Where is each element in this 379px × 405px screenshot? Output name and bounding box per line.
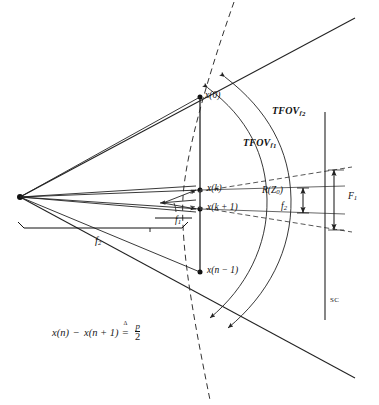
formula-numerator: p — [135, 322, 140, 331]
label-F1: F1 — [348, 192, 357, 202]
focal-surface-dashed-curve — [183, 2, 234, 400]
fov-dashed-edges — [190, 167, 352, 232]
label-tfov-f2: TFOVf2 — [272, 106, 306, 118]
formula-fraction: p 2 — [135, 322, 140, 343]
label-sc: SC — [330, 297, 339, 304]
f2-baseline-bracket — [18, 222, 188, 232]
label-xn1: x(n − 1) — [207, 266, 238, 276]
diagram-canvas — [0, 0, 379, 405]
dimension-F1 — [328, 170, 344, 230]
arrow-leftward — [160, 200, 196, 203]
label-xk1: x(k + 1) — [207, 203, 238, 213]
ray-apex-to-x0 — [20, 97, 200, 197]
formula-equals-sign: = — [122, 326, 128, 338]
bracket-left — [18, 222, 150, 228]
label-f2-right: f2 — [281, 202, 287, 212]
label-tfov-f1: TFOVf1 — [243, 138, 277, 150]
label-f2-baseline: f2 — [95, 236, 101, 247]
label-xk: x(k) — [207, 184, 222, 194]
formula-sample-spacing: x(n) − x(n + 1) Δ = p 2 — [52, 322, 140, 343]
ray-apex-to-xn1 — [20, 197, 200, 272]
label-x0: x(0) — [205, 91, 220, 101]
sample-point-dots — [17, 95, 203, 275]
formula-denominator: 2 — [135, 331, 140, 343]
formula-delta-mark: Δ — [123, 320, 127, 326]
formula-minus: − — [74, 327, 80, 338]
bracket-right — [150, 222, 188, 228]
formula-lhs-a: x(n) — [52, 327, 69, 338]
figure-root: x(0) x(k) x(k + 1) x(n − 1) TFOVf2 TFOVf… — [0, 0, 379, 405]
dimension-rz0 — [297, 188, 309, 213]
formula-lhs-b: x(n + 1) — [84, 327, 119, 338]
label-rz0: R(Z0) — [262, 186, 283, 196]
label-f1-angle: f1 — [175, 216, 181, 226]
formula-triangle-equals: Δ = — [122, 326, 128, 338]
